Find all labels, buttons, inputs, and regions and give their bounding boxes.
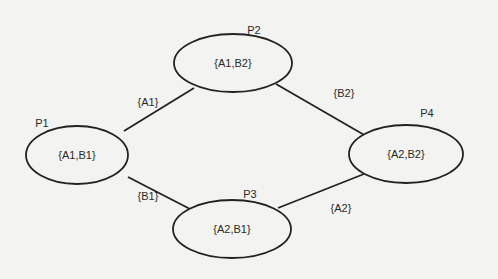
node-set-label: {A1,B2} [214, 57, 252, 69]
node-name-label: P3 [243, 188, 256, 200]
node-p2: {A1,B2}P2 [174, 24, 292, 92]
node-set-label: {A2,B1} [213, 223, 251, 235]
edge-label: {B1} [138, 190, 159, 202]
edge-p3-p4: {A2} [278, 174, 364, 214]
edge-label: {B2} [334, 87, 355, 99]
node-p3: {A2,B1}P3 [173, 188, 291, 258]
edge-p2-p4: {B2} [276, 84, 366, 136]
node-p1: {A1,B1}P1 [26, 117, 128, 184]
node-name-label: P4 [420, 107, 433, 119]
node-set-label: {A2,B2} [387, 148, 425, 160]
node-name-label: P2 [247, 24, 260, 36]
node-set-label: {A1,B1} [58, 149, 96, 161]
edge-label: {A2} [331, 202, 352, 214]
node-name-label: P1 [35, 117, 48, 129]
process-graph-diagram: {A1}{B1}{B2}{A2} {A1,B1}P1{A1,B2}P2{A2,B… [0, 0, 498, 279]
edge-line [124, 88, 194, 131]
edge-p1-p3: {B1} [128, 177, 190, 209]
edge-label: {A1} [138, 96, 159, 108]
edge-p1-p2: {A1} [124, 88, 194, 131]
node-p4: {A2,B2}P4 [349, 107, 463, 183]
